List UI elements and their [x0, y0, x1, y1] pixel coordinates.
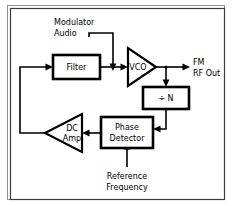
arrowhead-vco-input — [121, 64, 129, 71]
block-dc-amp: DC Amp — [45, 114, 82, 152]
block-phase-detector: Phase Detector — [101, 117, 153, 148]
frame-shadow — [8, 6, 225, 200]
label-reference-frequency: Reference Frequency — [106, 172, 148, 192]
fm-rf-out-line2: RF Out — [193, 69, 220, 78]
phase-detector-label-line1: Phase — [115, 123, 139, 132]
arrowhead-dc-amp-input — [82, 130, 90, 137]
wire-feedback-loop — [20, 67, 47, 133]
phase-detector-box — [101, 117, 153, 148]
dc-amp-label-line1: DC — [66, 124, 78, 133]
block-vco: VCO — [128, 48, 156, 86]
fm-rf-out-line1: FM — [193, 58, 205, 67]
block-divider: ÷ N — [143, 87, 189, 109]
arrowhead-fm-rf-out — [183, 64, 191, 71]
modulator-audio-line1: Modulator — [54, 18, 95, 27]
block-filter: Filter — [53, 55, 100, 79]
label-fm-rf-out: FM RF Out — [193, 58, 220, 78]
vco-label: VCO — [129, 63, 146, 72]
diagram-canvas: Filter VCO ÷ N Phase Detector DC Amp Mod… — [0, 0, 233, 206]
phase-detector-label-line2: Detector — [110, 134, 146, 143]
pll-block-diagram: Filter VCO ÷ N Phase Detector DC Amp Mod… — [0, 0, 233, 206]
reference-frequency-line2: Frequency — [106, 183, 148, 192]
dc-amp-label-line2: Amp — [63, 134, 81, 143]
modulator-audio-line2: Audio — [54, 29, 77, 38]
divider-label: ÷ N — [158, 94, 173, 103]
filter-label: Filter — [67, 63, 88, 72]
dc-amp-triangle — [45, 114, 82, 152]
reference-frequency-line1: Reference — [107, 172, 147, 181]
